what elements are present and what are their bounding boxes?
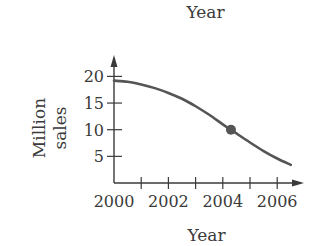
x-tick-label: 2006 [257, 192, 298, 211]
y-axis-title-line: Million [29, 98, 49, 158]
sales-curve [114, 81, 291, 165]
y-axis-title: Millionsales [29, 98, 70, 158]
y-axis-arrow-icon [111, 55, 118, 67]
y-tick-label: 20 [84, 67, 104, 86]
y-tick-label: 5 [94, 147, 104, 166]
y-tick-label: 15 [84, 94, 104, 113]
x-axis-arrow-icon [292, 180, 304, 187]
y-axis-title-line: sales [50, 106, 70, 149]
y-tick-label: 10 [84, 121, 104, 140]
tick-labels: 20002002200420065101520 [84, 67, 298, 211]
highlight-point [226, 125, 236, 135]
ticks [107, 76, 277, 189]
x-axis-title: Year [186, 225, 226, 245]
line-chart: 20002002200420065101520 Year Millionsale… [0, 0, 317, 246]
x-tick-label: 2000 [94, 192, 135, 211]
x-tick-label: 2004 [202, 192, 243, 211]
x-tick-label: 2002 [148, 192, 189, 211]
axes [111, 55, 305, 187]
